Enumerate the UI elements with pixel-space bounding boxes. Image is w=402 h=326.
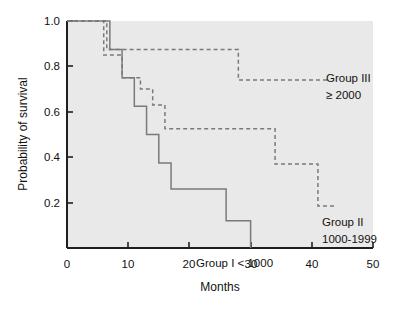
x-tick-label-0: 0 xyxy=(64,258,70,270)
survival-curve-figure: 1.0 0.8 0.6 0.4 0.2 0 10 20 30 40 50 Mon… xyxy=(0,0,402,326)
x-tick-label-50: 50 xyxy=(367,258,380,270)
group-3-label-line1: Group III xyxy=(326,72,371,84)
y-tick-label-0.6: 0.6 xyxy=(44,106,60,118)
x-tick-label-40: 40 xyxy=(306,258,319,270)
y-axis-title: Probability of survival xyxy=(16,77,30,190)
y-tick-label-0.4: 0.4 xyxy=(44,151,61,163)
x-tick-label-10: 10 xyxy=(122,258,135,270)
x-axis-title: Months xyxy=(200,280,239,294)
group-1-label-line1: Group I < 1000 xyxy=(196,257,273,269)
x-tick-label-20: 20 xyxy=(183,258,196,270)
chart-canvas: 1.0 0.8 0.6 0.4 0.2 0 10 20 30 40 50 Mon… xyxy=(0,0,402,326)
group-3-label-line2: ≥ 2000 xyxy=(326,89,361,101)
y-tick-label-0.2: 0.2 xyxy=(44,197,60,209)
y-tick-label-0.8: 0.8 xyxy=(44,60,60,72)
group-2-label-line2: 1000-1999 xyxy=(322,233,377,245)
annotation-group-1: Group I < 1000 xyxy=(196,257,273,269)
y-tick-label-1.0: 1.0 xyxy=(44,15,60,27)
group-2-label-line1: Group II xyxy=(322,216,364,228)
